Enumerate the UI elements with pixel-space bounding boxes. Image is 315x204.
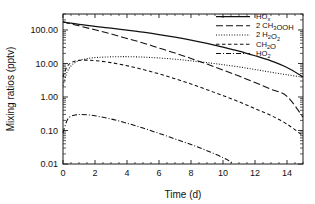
chart-legend: HOx2 CH3OOH2 H2O2CH2OHO2	[216, 12, 294, 59]
x-tick-label: 4	[124, 168, 129, 178]
x-tick-label: 10	[218, 168, 228, 178]
chart-figure: 02468101214 0.010.101.0010.00100.00 Time…	[0, 0, 315, 204]
y-axis-label: Mixing ratios (pptv)	[5, 47, 16, 131]
y-tick-label: 10.00	[35, 59, 58, 69]
y-tick-labels: 0.010.101.0010.00100.00	[30, 25, 58, 169]
y-tick-label: 0.10	[40, 126, 58, 136]
y-tick-label: 0.01	[40, 159, 58, 169]
x-tick-label: 0	[60, 168, 65, 178]
series-curve-ch2o	[63, 60, 303, 136]
y-tick-label: 100.00	[30, 25, 58, 35]
x-tick-label: 6	[156, 168, 161, 178]
x-tick-labels: 02468101214	[60, 168, 292, 178]
x-tick-label: 8	[188, 168, 193, 178]
y-tick-label: 1.00	[40, 92, 58, 102]
legend-label-ho2: HO2	[256, 49, 271, 59]
mixing-ratios-line-chart: 02468101214 0.010.101.0010.00100.00 Time…	[0, 0, 315, 204]
x-tick-label: 14	[282, 168, 292, 178]
x-tick-label: 2	[92, 168, 97, 178]
series-curve-ho2	[63, 114, 233, 162]
x-tick-label: 12	[250, 168, 260, 178]
x-axis-label: Time (d)	[165, 189, 202, 200]
